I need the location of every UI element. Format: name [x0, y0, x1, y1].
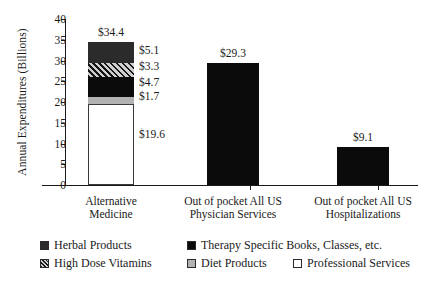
bar-total-label-hospitalizations: $9.1	[332, 131, 394, 143]
legend-item-therapy-books: Therapy Specific Books, Classes, etc.	[187, 236, 382, 254]
legend-item-diet-products: Diet Products	[187, 254, 267, 272]
legend-swatch-diet-products-icon	[187, 259, 196, 268]
bar-physician-services	[207, 63, 259, 185]
legend-label-professional-services: Professional Services	[307, 257, 410, 269]
y-tick-label-10: 10	[40, 139, 66, 150]
x-tick-1	[250, 185, 251, 190]
bar-total-label-alternative-medicine: $34.4	[80, 26, 142, 38]
x-axis-line	[42, 185, 418, 186]
bar-hospitalizations	[337, 147, 389, 185]
legend-swatch-professional-services-icon	[293, 259, 302, 268]
x-category-line-1: Alternative	[61, 195, 161, 208]
y-tick-label-40: 40	[40, 14, 66, 25]
legend-label-high-dose-vitamins: High Dose Vitamins	[54, 257, 152, 269]
y-tick-label-15: 15	[40, 118, 66, 129]
bar-segment-herbal-products	[88, 42, 134, 63]
legend-swatch-high-dose-vitamins-icon	[40, 259, 49, 268]
x-category-line-2: Physician Services	[174, 208, 292, 221]
segment-label-professional-services: $19.6	[139, 128, 165, 140]
bar-total-label-physician-services: $29.3	[202, 47, 264, 59]
y-tick-label-35: 35	[40, 35, 66, 46]
legend-swatch-therapy-books-icon	[187, 241, 196, 250]
y-tick-label-5: 5	[40, 159, 66, 170]
legend-label-diet-products: Diet Products	[201, 257, 267, 269]
y-tick-label-0: 0	[40, 180, 66, 191]
x-category-line-2: Hospitalizations	[304, 208, 422, 221]
y-tick-label-25: 25	[40, 76, 66, 87]
x-category-line-2: Medicine	[61, 208, 161, 221]
bar-segment-professional-services	[88, 104, 134, 185]
legend-row-2: High Dose Vitamins Diet Products Profess…	[40, 254, 420, 272]
legend-label-therapy-books: Therapy Specific Books, Classes, etc.	[201, 239, 382, 251]
expenditures-bar-chart: Annual Expenditures (Billions) 0 5 10 15…	[0, 0, 429, 283]
legend-label-herbal-products: Herbal Products	[54, 239, 132, 251]
segment-label-high-dose-vitamins: $3.3	[139, 60, 159, 72]
bar-segment-high-dose-vitamins	[88, 63, 134, 77]
y-tick-label-20: 20	[40, 97, 66, 108]
legend-swatch-herbal-products-icon	[40, 241, 49, 250]
x-category-label-hospitalizations: Out of pocket All US Hospitalizations	[304, 195, 422, 220]
bar-segment-diet-products	[88, 97, 134, 104]
y-tick-label-30: 30	[40, 56, 66, 67]
segment-label-herbal-products: $5.1	[139, 44, 159, 56]
bar-segment-therapy-books	[88, 77, 134, 97]
legend-row-1: Herbal Products Therapy Specific Books, …	[40, 236, 420, 254]
legend-item-high-dose-vitamins: High Dose Vitamins	[40, 254, 152, 272]
x-category-line-1: Out of pocket All US	[174, 195, 292, 208]
legend-item-herbal-products: Herbal Products	[40, 236, 132, 254]
x-category-label-alternative-medicine: Alternative Medicine	[61, 195, 161, 220]
segment-label-therapy-books: $4.7	[139, 76, 159, 88]
x-category-label-physician-services: Out of pocket All US Physician Services	[174, 195, 292, 220]
bar-alternative-medicine	[88, 42, 134, 185]
legend-item-professional-services: Professional Services	[293, 254, 410, 272]
x-category-line-1: Out of pocket All US	[304, 195, 422, 208]
chart-legend: Herbal Products Therapy Specific Books, …	[40, 236, 420, 272]
segment-label-diet-products: $1.7	[139, 90, 159, 102]
x-tick-2	[378, 185, 379, 190]
